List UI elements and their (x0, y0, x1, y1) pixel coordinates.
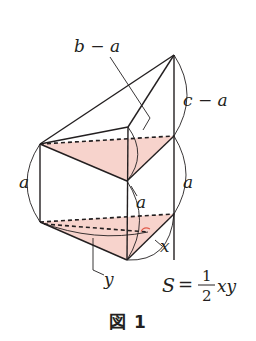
label-left-a: a (19, 172, 29, 192)
label-c-minus-a: c − a (183, 90, 228, 110)
figure-caption: 図 1 (0, 308, 256, 333)
truncated-prism-figure: b − a c − a a a a x y S = 1 2 xy 図 1 (0, 0, 256, 341)
formula-xy: xy (217, 276, 237, 296)
label-middle-a: a (136, 192, 146, 212)
formula-numerator: 1 (202, 267, 212, 285)
formula-s: S (162, 274, 175, 296)
formula-denominator: 2 (202, 287, 212, 305)
base-shaded-triangle (40, 214, 174, 260)
label-y: y (103, 269, 114, 289)
label-b-minus-a: b − a (74, 36, 120, 56)
upper-shaded-triangle (40, 136, 174, 181)
label-x: x (160, 236, 170, 256)
formula-equals: = (178, 274, 193, 295)
edge-top-mid-vertical (127, 127, 128, 260)
edge-apex-mid (128, 55, 174, 127)
prism-diagram: b − a c − a a a a x y S = 1 2 xy (0, 0, 256, 341)
label-right-a: a (183, 172, 193, 192)
area-formula: S = 1 2 xy (162, 267, 237, 305)
